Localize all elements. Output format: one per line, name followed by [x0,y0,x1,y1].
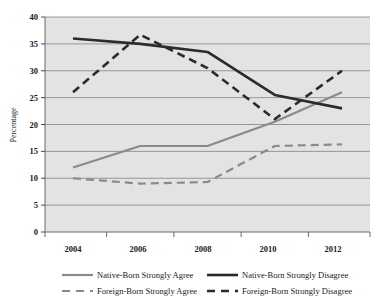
y-axis-title: Percentage [9,107,18,143]
y-tick-label-5: 5 [34,200,38,210]
chart-legend: Native-Born Strongly Agree Native-Born S… [62,270,352,296]
y-tick-label-30: 30 [30,66,39,76]
x-tick-label-2004: 2004 [65,244,83,254]
line-chart: 0510152025303540 Percentage 2004 2006 20… [0,0,384,304]
legend-label-foreign-born-strongly-disagree: Foreign-Born Strongly Disagree [242,286,352,296]
y-tick-label-25: 25 [30,93,39,103]
legend-label-native-born-strongly-disagree: Native-Born Strongly Disagree [242,270,348,280]
x-tick-label-2008: 2008 [195,244,212,254]
legend-label-foreign-born-strongly-agree: Foreign-Born Strongly Agree [97,286,197,296]
y-tick-label-0: 0 [34,227,38,237]
x-axis-ticks [45,232,370,237]
x-tick-label-2006: 2006 [130,244,147,254]
x-tick-label-2012: 2012 [325,244,342,254]
y-tick-label-35: 35 [30,39,39,49]
y-tick-label-20: 20 [30,120,39,130]
y-axis-ticks: 0510152025303540 [30,12,46,237]
y-tick-label-15: 15 [30,146,39,156]
y-tick-label-40: 40 [30,12,39,22]
y-tick-label-10: 10 [30,173,39,183]
legend-label-native-born-strongly-agree: Native-Born Strongly Agree [97,270,194,280]
x-tick-label-2010: 2010 [260,244,277,254]
